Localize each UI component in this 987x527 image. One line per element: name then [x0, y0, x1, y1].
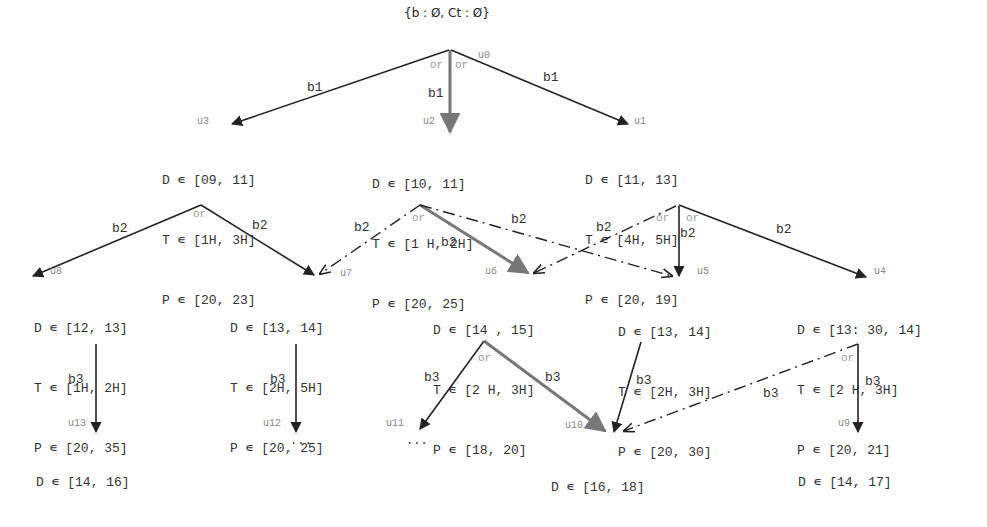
- edge-label-u0-u1: b1: [543, 70, 559, 85]
- node-u13[interactable]: D ∊ [14, 16] T ∊ [1H, 2H] P ∊ [20, 30]: [36, 433, 130, 527]
- node-id-u5: u5: [697, 266, 709, 277]
- node-u9[interactable]: D ∊ [14, 17] T ∊ [2H, 3H] P ∊ [23, 29]: [798, 433, 892, 527]
- edge-label-u4-u10: b3: [763, 386, 779, 401]
- edge-label-u1-u4: b2: [776, 222, 792, 237]
- duration-range: D ∊ [09, 11]: [162, 171, 256, 191]
- node-u11-ellipsis[interactable]: ...: [406, 434, 428, 448]
- node-id-u11: u11: [386, 418, 404, 429]
- node-id-u13: u13: [68, 418, 86, 429]
- or-tag: or: [455, 59, 468, 71]
- or-tag: or: [430, 59, 443, 71]
- time-range: T ∊ [2H, 3H]: [618, 383, 712, 403]
- edge-label-u2-u6: b2: [441, 235, 457, 250]
- price-range: P ∊ [18, 20]: [433, 441, 534, 461]
- edge-u0-u1: [451, 50, 628, 124]
- node-id-u4: u4: [874, 266, 886, 277]
- or-tag: or: [193, 208, 206, 220]
- node-u10[interactable]: D ∊ [16, 18] T ∊ [1H, 2H] P ∊ [20, 23]: [551, 438, 645, 527]
- duration-range: D ∊ [11, 13]: [585, 171, 679, 191]
- duration-range: D ∊ [10, 11]: [372, 175, 473, 195]
- or-tag: or: [841, 352, 854, 364]
- edge-u0-u3: [232, 50, 449, 124]
- duration-range: D ∊ [16, 18]: [551, 478, 645, 498]
- edge-label-u5-u10: b3: [636, 373, 652, 388]
- duration-range: D ∊ [14, 16]: [36, 473, 130, 493]
- node-id-u6: u6: [485, 266, 497, 277]
- time-range: T ∊ [1H, 3H]: [162, 231, 256, 251]
- edge-label-u3-u8: b2: [112, 221, 128, 236]
- node-id-u8: u8: [50, 266, 62, 277]
- or-tag: or: [412, 212, 425, 224]
- edge-label-u0-u2: b1: [428, 86, 444, 101]
- node-u12-ellipsis[interactable]: ...: [290, 434, 312, 448]
- node-id-u2: u2: [423, 116, 435, 127]
- edge-label-u6-u11: b3: [424, 370, 440, 385]
- and-or-search-tree: {b : Ø, Ct : Ø} u0 or or b1 b1 b1 u3 D ∊…: [0, 0, 987, 527]
- node-id-u3: u3: [197, 116, 209, 127]
- edge-label-u6-u10: b3: [545, 370, 561, 385]
- or-tag: or: [656, 212, 669, 224]
- edge-label-u1-u5: b2: [680, 226, 696, 241]
- duration-range: D ∊ [14, 17]: [798, 473, 892, 493]
- duration-range: D ∊ [13, 14]: [618, 323, 712, 343]
- edge-label-u4-u9: b3: [865, 374, 881, 389]
- node-id-u1: u1: [634, 116, 646, 127]
- edge-label-u2-u5: b2: [511, 212, 527, 227]
- edge-label-u2-u7: b2: [354, 220, 370, 235]
- time-range: T ∊ [2 H, 3H]: [797, 381, 922, 401]
- edge-label-u8-u13: b3: [68, 372, 84, 387]
- root-state-label: {b : Ø, Ct : Ø}: [404, 6, 490, 20]
- duration-range: D ∊ [12, 13]: [34, 319, 128, 339]
- time-range: T ∊ [2 H, 3H]: [433, 381, 534, 401]
- node-id-u7: u7: [340, 268, 352, 279]
- edge-label-u0-u3: b1: [307, 80, 323, 95]
- time-range: T ∊ [1 H, 2H]: [372, 235, 473, 255]
- edge-label-u7-u12: b3: [270, 372, 286, 387]
- edge-label-u1-u6: b2: [596, 220, 612, 235]
- node-u6[interactable]: D ∊ [14 , 15] T ∊ [2 H, 3H] P ∊ [18, 20]: [433, 281, 534, 501]
- node-id-u12: u12: [263, 418, 281, 429]
- or-tag: or: [686, 212, 699, 224]
- duration-range: D ∊ [14 , 15]: [433, 321, 534, 341]
- edge-label-u3-u7: b2: [252, 218, 268, 233]
- node-id-u0: u0: [478, 50, 490, 61]
- duration-range: D ∊ [13, 14]: [230, 319, 324, 339]
- duration-range: D ∊ [13: 30, 14]: [797, 321, 922, 341]
- node-u7[interactable]: D ∊ [13, 14] T ∊ [2H, 5H] P ∊ [20, 25]: [230, 279, 324, 499]
- node-id-u10: u10: [565, 420, 583, 431]
- node-id-u9: u9: [838, 418, 850, 429]
- or-tag: or: [478, 352, 491, 364]
